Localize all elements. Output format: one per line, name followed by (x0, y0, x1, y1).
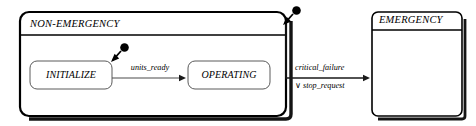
diagram-canvas: NON-EMERGENCY INITIALIZE OPERATING EMERG… (0, 0, 476, 126)
state-operating[interactable]: OPERATING (188, 61, 270, 89)
transition-critical-failure-arrowhead (363, 75, 370, 81)
state-initialize[interactable]: INITIALIZE (30, 61, 112, 89)
initial-pseudostate-top-dot[interactable] (292, 6, 301, 15)
state-operating-label: OPERATING (202, 69, 257, 80)
state-emergency-label: EMERGENCY (378, 14, 444, 25)
initial-pseudostate-inner-dot[interactable] (120, 43, 129, 52)
transition-critical-failure-label-line1: critical_failure (295, 63, 345, 72)
transition-units-ready-label: units_ready (131, 63, 170, 72)
transition-critical-failure[interactable]: critical_failure ∨ stop_request (286, 24, 370, 90)
state-emergency[interactable]: EMERGENCY (372, 12, 462, 116)
state-initialize-label: INITIALIZE (45, 69, 96, 80)
state-non-emergency-label: NON-EMERGENCY (29, 18, 120, 29)
state-emergency-body[interactable] (372, 12, 462, 116)
transition-critical-failure-label-line2: ∨ stop_request (295, 81, 345, 90)
statechart-diagram: NON-EMERGENCY INITIALIZE OPERATING EMERG… (0, 0, 476, 126)
